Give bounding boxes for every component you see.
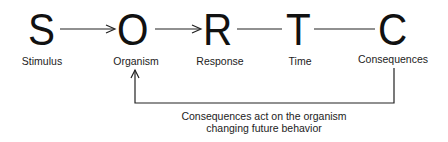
node-label-consequences: Consequences xyxy=(358,53,428,65)
node-letter-response: R xyxy=(203,8,232,52)
node-label-stimulus: Stimulus xyxy=(22,55,62,67)
feedback-caption-line1: Consequences act on the organism xyxy=(154,110,374,122)
node-label-time: Time xyxy=(289,55,312,67)
node-letter-time: T xyxy=(286,8,311,52)
node-label-organism: Organism xyxy=(113,55,159,67)
feedback-loop xyxy=(135,68,394,103)
feedback-caption-line2: changing future behavior xyxy=(154,122,374,134)
node-letter-stimulus: S xyxy=(28,8,55,52)
node-letter-consequences: C xyxy=(378,8,407,52)
node-letter-organism: O xyxy=(117,8,148,52)
node-label-response: Response xyxy=(196,55,243,67)
